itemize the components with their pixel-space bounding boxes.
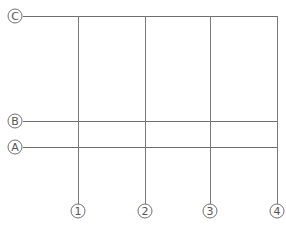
axis-bubble-c: C: [8, 9, 22, 23]
axis-bubble-a: A: [8, 140, 22, 154]
axis-label: C: [11, 10, 19, 23]
axis-label: 4: [274, 205, 281, 218]
axis-bubble-3: 3: [203, 204, 217, 218]
grid-plan-canvas: CBA1234: [0, 0, 286, 229]
axis-label: 2: [142, 205, 149, 218]
axis-label: A: [11, 141, 19, 154]
axis-bubble-4: 4: [270, 204, 284, 218]
axis-bubble-2: 2: [138, 204, 152, 218]
vertical-grid-lines: [79, 16, 278, 204]
axis-bubble-1: 1: [71, 204, 85, 218]
axis-label: B: [11, 115, 19, 128]
axis-label: 1: [75, 205, 82, 218]
horizontal-grid-lines: [23, 17, 278, 148]
axis-label: 3: [207, 205, 214, 218]
axis-bubble-b: B: [8, 114, 22, 128]
